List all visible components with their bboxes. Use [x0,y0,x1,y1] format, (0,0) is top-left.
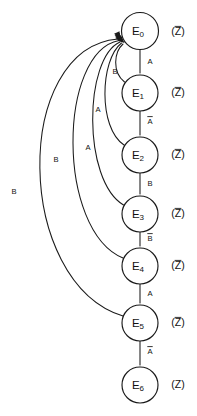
output-label-e2: (Z) [171,148,184,160]
feedback-edges-layer: BAABB [11,31,126,316]
edge-E5-to-E6-label: A [147,347,153,356]
edge-E5-to-E0-label-text: B [11,187,16,196]
state-node-e4[interactable]: E4 [122,248,158,284]
edge-E1-to-E0-label-text: B [112,67,117,76]
edge-E3-to-E4-label-text: B [147,234,152,243]
output-label-e5: (Z) [171,316,184,328]
edge-E0-to-E1-label-text: A [147,57,153,66]
output-label-e1: (Z) [171,86,184,98]
output-labels-layer: (Z)(Z)(Z)(Z)(Z)(Z)(Z) [171,25,184,390]
edge-E2-to-E3-label-text: B [147,179,152,188]
edge-E4-to-E0-label-text: B [53,155,58,164]
state-node-e1[interactable]: E1 [122,75,158,111]
edge-E4-to-E5-label: A [147,289,153,298]
edge-E3-to-E0-label-text: A [85,143,91,152]
edge-E5-to-E6-label-text: A [147,347,153,356]
output-label-e4: (Z) [171,259,184,271]
edge-E1-to-E2-label: A [147,117,153,126]
edge-E4-to-E5-label-text: A [147,289,153,298]
edge-E5-to-E0 [40,39,123,316]
output-label-e6: (Z) [171,378,184,390]
edge-E1-to-E0-label: B [112,67,117,76]
state-node-e6[interactable]: E6 [122,367,158,403]
edge-E1-to-E0 [116,44,125,82]
state-node-e0[interactable]: E0 [122,13,159,50]
state-diagram-container: BAABB AABBAA E0E1E2E3E4E5E6 (Z)(Z)(Z)(Z)… [0,0,197,416]
edge-E2-to-E3-label: B [147,179,152,188]
output-label-e6-text: (Z) [171,378,184,390]
edge-E2-to-E0 [105,43,124,145]
edge-E3-to-E4-label: B [147,234,152,243]
output-label-e0: (Z) [171,25,184,37]
edge-E2-to-E0-label-text: A [95,105,101,114]
edge-E2-to-E0-label: A [95,105,101,114]
edge-E0-to-E1-label: A [147,57,153,66]
edge-E3-to-E0-label: A [85,143,91,152]
state-node-e3[interactable]: E3 [122,196,158,232]
edge-E1-to-E2-label-text: A [147,117,153,126]
state-node-e5[interactable]: E5 [122,305,158,341]
output-label-e3: (Z) [171,207,184,219]
edge-E4-to-E0-label: B [53,155,58,164]
state-node-e2[interactable]: E2 [122,137,158,173]
edge-E5-to-E0-label: B [11,187,16,196]
state-transition-diagram: BAABB AABBAA E0E1E2E3E4E5E6 (Z)(Z)(Z)(Z)… [0,0,197,416]
